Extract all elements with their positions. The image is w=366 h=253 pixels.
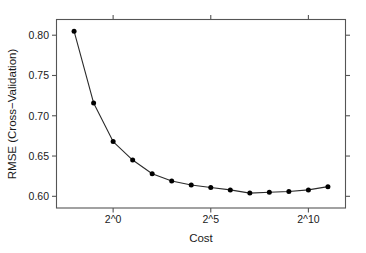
- x-tick-label: 2^0: [105, 213, 122, 225]
- data-point: 2^1: 0.645: [130, 158, 135, 163]
- x-axis-title: Cost: [189, 232, 213, 244]
- x-tick-label: 2^5: [202, 213, 219, 225]
- data-point: 2^-1: 0.716: [91, 100, 96, 105]
- y-tick-label: 0.80: [29, 29, 50, 41]
- data-point: 2^0: 0.668: [111, 139, 116, 144]
- y-axis-title: RMSE (Cross−Validation): [6, 49, 18, 180]
- y-tick-label: 0.70: [29, 110, 50, 122]
- data-point: 2^5: 0.611: [208, 185, 213, 190]
- data-point: 2^11: 0.612: [325, 184, 330, 189]
- data-point: 2^9: 0.606: [286, 189, 291, 194]
- data-point: 2^2: 0.628: [150, 171, 155, 176]
- chart-screenshot: 0.600.650.700.750.80 2^02^52^10 2^-2: 0.…: [0, 0, 366, 253]
- data-point: 2^4: 0.614: [189, 183, 194, 188]
- y-tick-label: 0.75: [29, 69, 50, 81]
- data-point: 2^8: 0.605: [267, 190, 272, 195]
- data-point: 2^10: 0.608: [306, 187, 311, 192]
- rmse-vs-cost-line-chart: 0.600.650.700.750.80 2^02^52^10 2^-2: 0.…: [0, 0, 366, 253]
- y-tick-label: 0.60: [29, 190, 50, 202]
- data-point: 2^-2: 0.805: [72, 29, 77, 34]
- x-tick-label: 2^10: [297, 213, 320, 225]
- data-point: 2^6: 0.608: [228, 187, 233, 192]
- data-point: 2^7: 0.604: [247, 191, 252, 196]
- y-tick-label: 0.65: [29, 150, 50, 162]
- data-point: 2^3: 0.619: [169, 179, 174, 184]
